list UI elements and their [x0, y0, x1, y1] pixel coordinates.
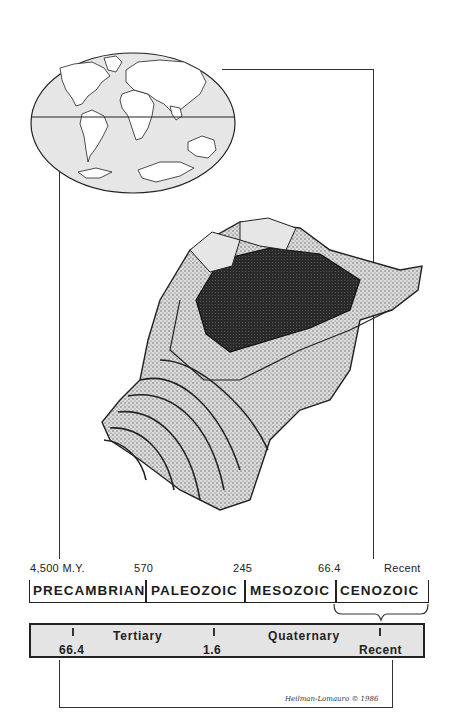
- tick-right-top: [373, 547, 374, 559]
- period-quaternary: Quaternary: [268, 629, 340, 643]
- era-separator: [244, 580, 246, 602]
- frame-line-left: [59, 172, 60, 547]
- era-separator: [335, 580, 337, 602]
- cenozoic-brace: [333, 604, 429, 624]
- shell-illustration: [100, 210, 430, 520]
- era-separator: [145, 580, 147, 602]
- era-precambrian: PRECAMBRIAN: [33, 583, 145, 598]
- value-66-4: 66.4: [59, 643, 84, 657]
- artist-credit: Heilman-Lomauro © 1986: [285, 695, 378, 703]
- bottom-frame-left: [59, 660, 60, 708]
- value-1-6: 1.6: [203, 643, 221, 657]
- cenozoic-period-box: Tertiary Quaternary 66.4 1.6 Recent: [29, 623, 425, 658]
- bottom-frame-right: [392, 660, 393, 708]
- tick-recent: Recent: [384, 562, 421, 574]
- value-recent: Recent: [359, 643, 402, 657]
- world-map: [30, 50, 236, 196]
- tick-mark: [72, 628, 74, 636]
- era-cenozoic: CENOZOIC: [340, 583, 419, 598]
- bottom-frame-base: [59, 707, 392, 708]
- tick-left-top: [59, 547, 60, 559]
- tick-570: 570: [134, 562, 153, 574]
- tick-mark: [379, 628, 381, 636]
- tick-4500: 4,500 M.Y.: [30, 562, 85, 574]
- era-bar: PRECAMBRIAN PALEOZOIC MESOZOIC CENOZOIC: [29, 580, 429, 603]
- tick-245: 245: [233, 562, 252, 574]
- period-tertiary: Tertiary: [113, 629, 163, 643]
- era-paleozoic: PALEOZOIC: [151, 583, 238, 598]
- era-mesozoic: MESOZOIC: [250, 583, 330, 598]
- tick-mark: [213, 628, 215, 636]
- tick-66-4: 66.4: [318, 562, 341, 574]
- frame-line-top: [222, 69, 373, 70]
